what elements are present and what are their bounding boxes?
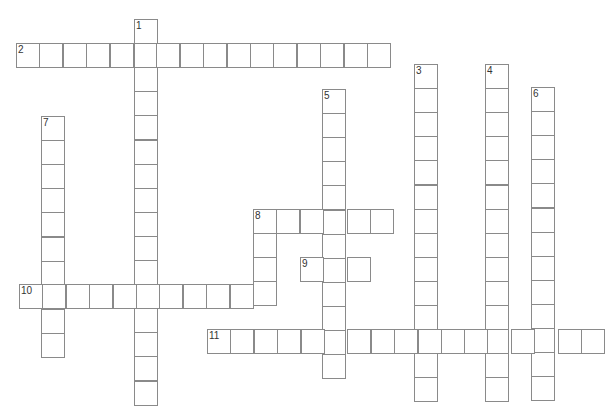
crossword-cell[interactable] [414,88,438,113]
crossword-cell[interactable] [322,185,346,210]
crossword-cell[interactable] [441,329,465,354]
crossword-cell[interactable] [322,161,346,186]
crossword-cell[interactable] [531,232,555,257]
crossword-cell[interactable] [414,209,438,234]
crossword-cell[interactable] [414,353,438,378]
crossword-cell[interactable]: 7 [41,116,65,141]
crossword-cell[interactable] [531,111,555,136]
crossword-cell[interactable] [531,159,555,184]
crossword-cell[interactable] [485,88,509,113]
crossword-cell[interactable] [41,212,65,237]
crossword-cell[interactable] [134,236,158,261]
crossword-cell[interactable] [485,136,509,161]
crossword-cell[interactable] [277,329,301,354]
crossword-cell[interactable] [414,305,438,330]
crossword-cell[interactable] [134,356,158,381]
crossword-cell[interactable] [41,309,65,334]
crossword-cell[interactable] [414,185,438,210]
crossword-cell[interactable] [485,160,509,185]
crossword-cell[interactable] [322,282,346,307]
crossword-cell[interactable] [253,257,277,282]
crossword-cell[interactable] [206,284,230,309]
crossword-cell[interactable] [322,137,346,162]
crossword-cell[interactable] [63,43,87,68]
crossword-cell[interactable] [531,208,555,233]
crossword-cell[interactable] [301,329,325,354]
crossword-cell[interactable] [414,281,438,306]
crossword-cell[interactable] [322,210,346,235]
crossword-cell[interactable] [320,43,344,68]
crossword-cell[interactable] [531,135,555,160]
crossword-cell[interactable] [531,304,555,329]
crossword-cell[interactable] [41,237,65,262]
crossword-cell[interactable]: 1 [134,19,158,44]
crossword-cell[interactable] [134,308,158,333]
crossword-cell[interactable] [134,43,158,68]
crossword-cell[interactable] [322,234,346,259]
crossword-cell[interactable] [367,43,391,68]
crossword-cell[interactable] [371,329,395,354]
crossword-cell[interactable]: 3 [414,64,438,89]
crossword-cell[interactable] [414,233,438,258]
crossword-cell[interactable] [253,281,277,306]
crossword-cell[interactable] [344,43,368,68]
crossword-cell[interactable] [485,209,509,234]
crossword-cell[interactable]: 2 [16,43,40,68]
crossword-cell[interactable] [134,164,158,189]
crossword-cell[interactable] [485,257,509,282]
crossword-cell[interactable] [531,256,555,281]
crossword-cell[interactable] [273,43,297,68]
crossword-cell[interactable] [159,284,183,309]
crossword-cell[interactable] [418,329,442,354]
crossword-cell[interactable] [134,67,158,92]
crossword-cell[interactable] [41,140,65,165]
crossword-cell[interactable] [89,284,113,309]
crossword-cell[interactable] [531,183,555,208]
crossword-cell[interactable] [66,284,90,309]
crossword-cell[interactable]: 5 [322,89,346,114]
crossword-cell[interactable] [254,329,278,354]
crossword-cell[interactable] [558,329,582,354]
crossword-cell[interactable] [531,352,555,377]
crossword-cell[interactable] [485,353,509,378]
crossword-cell[interactable] [322,354,346,379]
crossword-cell[interactable]: 11 [207,329,231,354]
crossword-cell[interactable] [414,377,438,402]
crossword-cell[interactable] [230,329,254,354]
crossword-cell[interactable]: 4 [485,64,509,89]
crossword-cell[interactable] [581,329,605,354]
crossword-cell[interactable] [41,188,65,213]
crossword-cell[interactable] [485,329,509,354]
crossword-cell[interactable] [485,185,509,210]
crossword-cell[interactable] [322,330,346,355]
crossword-cell[interactable] [485,233,509,258]
crossword-cell[interactable] [134,140,158,165]
crossword-cell[interactable] [134,332,158,357]
crossword-cell[interactable] [134,188,158,213]
crossword-cell[interactable] [414,257,438,282]
crossword-cell[interactable] [276,209,300,234]
crossword-cell[interactable] [250,43,274,68]
crossword-cell[interactable] [414,160,438,185]
crossword-cell[interactable] [347,257,371,282]
crossword-cell[interactable] [347,209,371,234]
crossword-cell[interactable] [414,112,438,137]
crossword-cell[interactable] [227,43,251,68]
crossword-cell[interactable] [134,260,158,285]
crossword-cell[interactable] [180,43,204,68]
crossword-cell[interactable] [464,329,488,354]
crossword-cell[interactable] [414,136,438,161]
crossword-cell[interactable] [41,333,65,358]
crossword-cell[interactable] [42,284,66,309]
crossword-cell[interactable] [39,43,63,68]
crossword-cell[interactable] [134,212,158,237]
crossword-cell[interactable] [134,381,158,406]
crossword-cell[interactable] [531,376,555,401]
crossword-cell[interactable] [485,112,509,137]
crossword-cell[interactable] [531,280,555,305]
crossword-cell[interactable] [300,209,324,234]
crossword-cell[interactable] [322,306,346,331]
crossword-cell[interactable] [370,209,394,234]
crossword-cell[interactable]: 8 [253,209,277,234]
crossword-cell[interactable] [297,43,321,68]
